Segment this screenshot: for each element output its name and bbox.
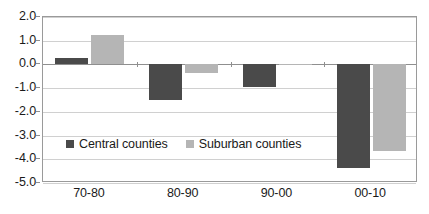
y-tick-label: 1.0: [19, 33, 36, 47]
y-tick-mark: [36, 135, 40, 136]
x-tick-label: 70-80: [73, 186, 104, 200]
y-tick-mark: [36, 40, 40, 41]
y-tick-label: 0.0: [19, 56, 36, 70]
y-tick-label: -5.0: [15, 175, 36, 189]
y-tick-label: -4.0: [15, 151, 36, 165]
x-tick-mark: [137, 62, 138, 67]
x-tick-label: 00-10: [354, 186, 385, 200]
legend-swatch-icon: [186, 140, 194, 148]
x-tick-mark: [231, 62, 232, 67]
gridline: [43, 183, 416, 184]
legend-label: Suburban counties: [199, 137, 302, 151]
y-tick-label: -3.0: [15, 128, 36, 142]
y-axis: 2.01.00.0-1.0-2.0-3.0-4.0-5.0: [0, 16, 36, 182]
y-tick-mark: [36, 63, 40, 64]
bar-00-10-suburban: [373, 64, 406, 151]
y-tick-label: -1.0: [15, 80, 36, 94]
legend-swatch-icon: [66, 140, 74, 148]
bar-70-80-central: [55, 58, 88, 65]
x-tick-label: 90-00: [261, 186, 292, 200]
y-tick-label: 2.0: [19, 9, 36, 23]
x-axis: 70-8080-9090-0000-10: [42, 186, 417, 208]
legend-item-suburban: Suburban counties: [186, 137, 302, 151]
x-tick-label: 80-90: [167, 186, 198, 200]
bar-70-80-suburban: [91, 35, 124, 65]
legend-label: Central counties: [79, 137, 168, 151]
plot-area: [42, 16, 417, 182]
y-tick-label: -2.0: [15, 104, 36, 118]
gridline: [43, 17, 416, 18]
bar-90-00-central: [243, 64, 276, 87]
legend-item-central: Central counties: [66, 137, 168, 151]
bar-80-90-suburban: [185, 64, 218, 72]
x-tick-mark: [324, 62, 325, 67]
bar-90-00-suburban: [279, 64, 312, 65]
y-tick-mark: [36, 158, 40, 159]
bar-chart: 2.01.00.0-1.0-2.0-3.0-4.0-5.0 70-8080-90…: [0, 0, 429, 214]
y-tick-mark: [36, 87, 40, 88]
y-tick-mark: [36, 16, 40, 17]
bar-00-10-central: [337, 64, 370, 167]
y-tick-mark: [36, 111, 40, 112]
chart-legend: Central countiesSuburban counties: [66, 137, 301, 151]
bar-80-90-central: [149, 64, 182, 99]
y-tick-mark: [36, 182, 40, 183]
